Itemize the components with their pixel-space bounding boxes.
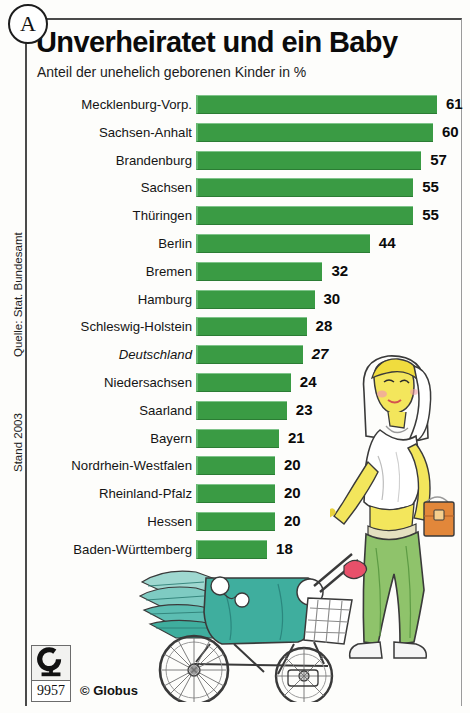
bar-category-label: Niedersachsen	[104, 375, 192, 390]
bar-value-label: 24	[300, 373, 317, 390]
bar-value-label: 20	[284, 456, 301, 473]
bar-category-label: Berlin	[158, 236, 192, 251]
table-row: Mecklenburg-Vorp.61	[0, 94, 470, 120]
globus-logo-icon	[32, 646, 70, 680]
bar-value-label: 20	[284, 484, 301, 501]
bar-category-label: Rheinland-Pfalz	[99, 486, 192, 501]
infographic-page: A Unverheiratet und ein Baby Anteil der …	[0, 0, 470, 713]
table-row: Sachsen55	[0, 177, 470, 203]
bar-category-label: Thüringen	[133, 208, 192, 223]
table-row: Baden-Württemberg18	[0, 539, 470, 565]
bar-category-label: Brandenburg	[116, 153, 192, 168]
bar	[196, 429, 279, 448]
table-row: Berlin44	[0, 233, 470, 259]
bar-chart: Mecklenburg-Vorp.61Sachsen-Anhalt60Brand…	[0, 0, 470, 713]
bar-category-label: Schleswig-Holstein	[81, 319, 192, 334]
bar-value-label: 23	[296, 401, 313, 418]
bar	[196, 456, 275, 475]
table-row: Bremen32	[0, 261, 470, 287]
bar-category-label: Sachsen-Anhalt	[99, 125, 192, 140]
bar	[196, 540, 267, 559]
table-row: Thüringen55	[0, 205, 470, 231]
bar	[196, 401, 287, 420]
bar-value-label: 55	[422, 206, 439, 223]
bar-value-label: 21	[288, 429, 305, 446]
bar-category-label: Bayern	[150, 431, 192, 446]
table-row: Sachsen-Anhalt60	[0, 122, 470, 148]
bar-category-label: Bremen	[146, 264, 192, 279]
bar-value-label: 20	[284, 512, 301, 529]
bar-value-label: 61	[446, 95, 463, 112]
bar-value-label: 60	[442, 123, 459, 140]
bar	[196, 512, 275, 531]
bar	[196, 178, 413, 197]
bar	[196, 234, 370, 253]
table-row: Brandenburg57	[0, 150, 470, 176]
bar	[196, 95, 437, 114]
bar-value-label: 57	[430, 151, 447, 168]
bar-value-label: 18	[276, 540, 293, 557]
bar	[196, 206, 413, 225]
bar	[196, 345, 303, 364]
bar-value-label: 30	[324, 290, 341, 307]
publication-number: 9957	[31, 681, 71, 702]
bar	[196, 317, 307, 336]
table-row: Saarland23	[0, 400, 470, 426]
bar	[196, 151, 421, 170]
globus-logo	[31, 645, 71, 681]
panel-marker-a: A	[8, 4, 48, 44]
bar-value-label: 32	[331, 262, 348, 279]
bar	[196, 262, 322, 281]
table-row: Hessen20	[0, 511, 470, 537]
bar-category-label: Sachsen	[141, 180, 192, 195]
table-row: Hamburg30	[0, 289, 470, 315]
bar	[196, 484, 275, 503]
bar-category-label: Mecklenburg-Vorp.	[81, 97, 192, 112]
bar-category-label: Nordrhein-Westfalen	[71, 458, 192, 473]
bar-category-label: Deutschland	[119, 347, 192, 362]
bar-category-label: Baden-Württemberg	[73, 542, 192, 557]
bar	[196, 123, 433, 142]
bar-category-label: Hessen	[147, 514, 192, 529]
table-row: Deutschland27	[0, 344, 470, 370]
table-row: Schleswig-Holstein28	[0, 316, 470, 342]
table-row: Nordrhein-Westfalen20	[0, 455, 470, 481]
bar-value-label: 44	[379, 234, 396, 251]
bar-value-label: 27	[312, 345, 329, 362]
bar	[196, 373, 291, 392]
bar-category-label: Saarland	[139, 403, 192, 418]
copyright-notice: © Globus	[80, 683, 138, 698]
bar-category-label: Hamburg	[138, 292, 192, 307]
table-row: Rheinland-Pfalz20	[0, 483, 470, 509]
bar-value-label: 55	[422, 178, 439, 195]
table-row: Niedersachsen24	[0, 372, 470, 398]
bar-value-label: 28	[316, 317, 333, 334]
table-row: Bayern21	[0, 428, 470, 454]
bar	[196, 290, 315, 309]
